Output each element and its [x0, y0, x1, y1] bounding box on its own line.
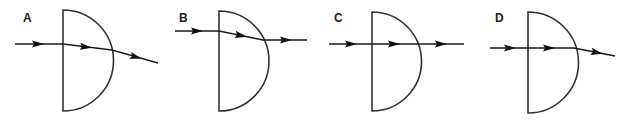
option-a: A [15, 10, 158, 111]
ray-arrows-b [191, 27, 292, 43]
option-b: B [175, 11, 307, 111]
arrowhead-icon [129, 52, 143, 62]
arrowhead-icon [234, 31, 247, 40]
option-label-c: C [334, 11, 343, 25]
option-c: C [329, 11, 464, 111]
semicircular-block-d [528, 12, 579, 113]
option-d: D [490, 11, 615, 113]
semicircular-block-b [219, 11, 269, 111]
arrowhead-icon [590, 48, 603, 57]
option-label-a: A [23, 11, 32, 25]
option-label-d: D [495, 11, 504, 25]
semicircular-block-a [63, 10, 114, 111]
semicircular-block-c [372, 12, 422, 111]
refraction-diagram: A B C D [0, 0, 633, 122]
option-label-b: B [179, 11, 188, 25]
